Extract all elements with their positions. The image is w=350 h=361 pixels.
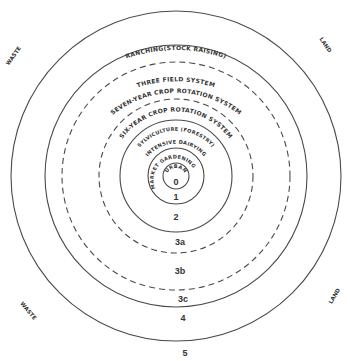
label-urban: URBAN <box>163 163 188 174</box>
ring-zone-3c-outer <box>62 62 290 290</box>
zone-2-number: 2 <box>173 212 178 222</box>
label-waste-top-left: WASTE <box>5 45 22 66</box>
zone-3c-number: 3c <box>178 294 188 304</box>
label-sylviculture: SYLVICULTURE (FORESTRY) <box>136 126 216 149</box>
zone-3a-number: 3a <box>175 237 186 247</box>
label-three-field-system: THREE FIELD SYSTEM <box>136 75 216 88</box>
rings <box>11 11 341 341</box>
land-use-zones-diagram: RANCHING(STOCK RAISING) THREE FIELD SYST… <box>0 0 350 361</box>
zone-5-number: 5 <box>182 348 187 358</box>
label-land-bottom-right: LAND <box>327 287 341 305</box>
zone-0-number: 0 <box>173 177 178 187</box>
zone-3b-number: 3b <box>175 266 186 276</box>
label-ranching: RANCHING(STOCK RAISING) <box>124 44 227 59</box>
ring-zone-3b-outer <box>99 99 253 253</box>
zone-1-number: 1 <box>173 192 178 202</box>
arc-labels: RANCHING(STOCK RAISING) THREE FIELD SYST… <box>109 44 243 190</box>
ring-zone-5-outer <box>11 11 341 341</box>
label-waste-bottom-left: WASTE <box>19 301 38 322</box>
label-land-top-right: LAND <box>318 36 333 54</box>
zone-4-number: 4 <box>180 313 185 323</box>
